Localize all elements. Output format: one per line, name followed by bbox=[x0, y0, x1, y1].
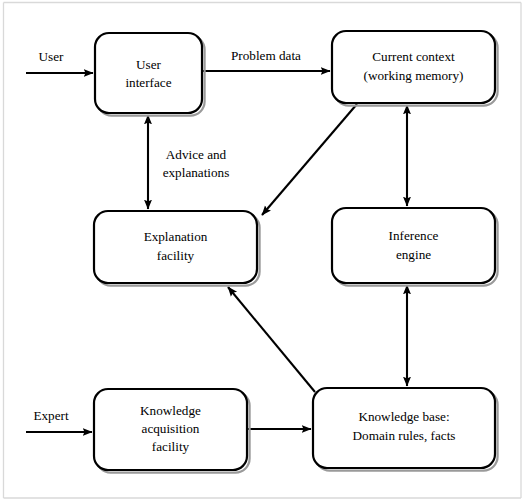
node-current-context-line1: Current context bbox=[372, 49, 455, 64]
node-inference-engine-line2: engine bbox=[396, 247, 431, 262]
edge-label-problem-data: Problem data bbox=[231, 48, 301, 63]
node-user-interface-line2: interface bbox=[125, 75, 171, 90]
node-knowledge-acquisition-line2: acquisition bbox=[142, 421, 200, 436]
expert-system-diagram: User interface Current context (working … bbox=[0, 0, 525, 501]
node-explanation-facility-line1: Explanation bbox=[144, 229, 208, 244]
edge-label-user: User bbox=[39, 49, 65, 64]
edge-context-to-explanation bbox=[262, 104, 357, 215]
node-user-interface[interactable]: User interface bbox=[95, 33, 205, 116]
node-current-context[interactable]: Current context (working memory) bbox=[332, 31, 498, 106]
node-knowledge-acquisition-facility[interactable]: Knowledge acquisition facility bbox=[94, 389, 250, 473]
edge-label-advice-line2: explanations bbox=[163, 165, 230, 180]
node-inference-engine-line1: Inference bbox=[389, 228, 439, 243]
node-knowledge-base-line1: Knowledge base: bbox=[358, 409, 449, 424]
node-explanation-facility-line2: facility bbox=[157, 248, 195, 263]
edge-label-advice-line1: Advice and bbox=[166, 147, 227, 162]
edge-label-expert: Expert bbox=[33, 408, 68, 423]
node-knowledge-acquisition-line3: facility bbox=[152, 439, 190, 454]
node-knowledge-base[interactable]: Knowledge base: Domain rules, facts bbox=[313, 388, 498, 471]
node-user-interface-line1: User bbox=[136, 57, 162, 72]
node-explanation-facility[interactable]: Explanation facility bbox=[94, 211, 260, 286]
edge-knowledge-base-to-explanation bbox=[228, 287, 315, 392]
node-current-context-line2: (working memory) bbox=[364, 68, 464, 83]
node-knowledge-base-line2: Domain rules, facts bbox=[353, 428, 456, 443]
diagram-canvas: User interface Current context (working … bbox=[0, 0, 525, 501]
node-knowledge-acquisition-line1: Knowledge bbox=[140, 403, 201, 418]
node-inference-engine[interactable]: Inference engine bbox=[332, 208, 498, 286]
